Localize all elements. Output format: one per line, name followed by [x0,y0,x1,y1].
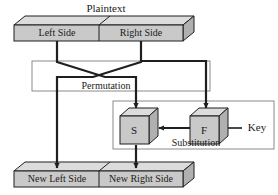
s-box-cube [120,108,158,144]
plaintext-title: Plaintext [86,2,125,14]
permutation-label: Permutation [82,80,131,91]
left-side-label: Left Side [39,27,76,38]
s-box-label: S [131,124,137,136]
key-label: Key [248,121,267,133]
new-left-side-label: New Left Side [28,173,87,184]
flow-left-to-sbox [57,41,136,108]
feistel-round-diagram: Plaintext Left Side Right Side Permutati… [0,0,278,195]
new-right-side-label: New Right Side [109,173,173,184]
substitution-label: Substitution [172,137,220,148]
f-box-label: F [201,124,207,136]
right-side-label: Right Side [120,27,163,38]
diagram-canvas: Plaintext Left Side Right Side Permutati… [0,0,278,195]
